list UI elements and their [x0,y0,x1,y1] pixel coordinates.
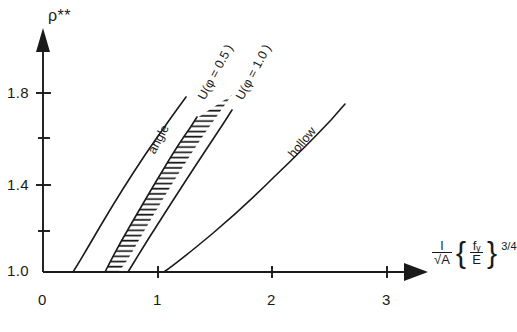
x-axis-title-sqrtA: √A [432,253,452,266]
x-tick-label-3: 3 [382,292,391,307]
x-axis-title: l √A { fᵧ E } 3/4 [432,239,517,266]
x-axis [43,263,428,281]
y-tick-label-1-8: 1.8 [7,85,29,100]
x-tick-label-0: 0 [38,292,47,307]
y-tick-label-1-0: 1.0 [7,263,29,278]
hatched-band [95,85,245,280]
curve-u-phi-10 [128,110,232,272]
x-tick-label-2: 2 [267,292,276,307]
x-axis-title-l: l [432,239,452,253]
y-axis-title: ρ** [48,8,71,24]
bracket-open-icon: { [456,236,466,269]
x-axis-title-fy: fᵧ [470,239,483,253]
x-axis-title-term-l-over-sqrtA: l √A [432,239,452,266]
y-tick-label-1-4: 1.4 [7,177,29,192]
x-axis-title-exponent: 3/4 [501,240,516,252]
x-tick-label-1: 1 [153,292,162,307]
x-axis-title-E: E [470,253,483,266]
x-axis-title-term-fy-over-E: fᵧ E [470,239,483,266]
bracket-close-icon: } [487,236,497,269]
y-axis [36,28,50,272]
